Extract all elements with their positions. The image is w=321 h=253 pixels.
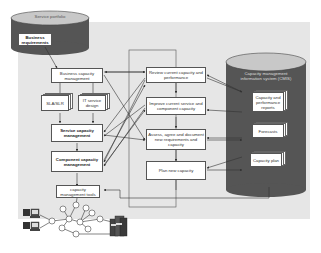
assess-requirements-box: Assess, agree and document new requireme… <box>146 129 206 150</box>
improve-capacity-box: Improve current service and component ca… <box>146 97 206 115</box>
plan-new-capacity-box: Plan new capacity <box>146 161 206 180</box>
review-capacity-box: Review current capacity and performance <box>146 67 206 83</box>
capacity-management-tools-box: capacity management tools <box>56 185 100 198</box>
it-service-design-stack: IT service design <box>78 95 110 113</box>
component-capacity-management-box: Component capacity management <box>51 151 103 172</box>
cmis-item-capacity-plan: Capacity plan <box>250 153 286 169</box>
cmis-item-performance-reports: Capacity and performance reports <box>252 92 288 114</box>
computer-icons <box>23 209 40 231</box>
cmis-item-forecasts: Forecasts <box>252 124 288 140</box>
service-capacity-management-box: Service capacity management <box>51 124 103 142</box>
sla-slr-stack: SLA/SLR <box>41 95 73 113</box>
capacity-management-diagram: Service portfolio Business requirements … <box>0 0 321 253</box>
business-capacity-management-box: Business capacity management <box>51 68 103 83</box>
service-portfolio-title: Service portfolio <box>22 14 78 19</box>
cmis-title: Capacity management information system (… <box>238 71 294 81</box>
server-icons <box>110 216 127 236</box>
business-requirements-box: Business requirements <box>18 33 52 46</box>
